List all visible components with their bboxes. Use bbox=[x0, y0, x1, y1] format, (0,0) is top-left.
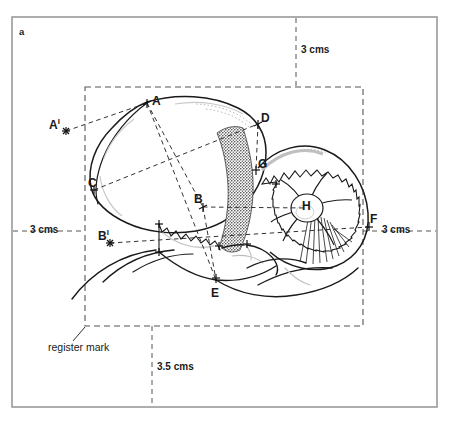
foot-to-operculum bbox=[216, 266, 276, 280]
landmark-label-E: E bbox=[211, 286, 219, 300]
anatomical-morphometry-drawing bbox=[0, 0, 459, 425]
landmark-label-H: H bbox=[302, 199, 311, 213]
operculum-group bbox=[258, 146, 368, 269]
shell-growth-lines bbox=[196, 104, 251, 128]
panel-label: a bbox=[19, 26, 24, 37]
dimension-label-bottom: 3.5 cms bbox=[157, 361, 194, 372]
landmark-marker-interior-4 bbox=[243, 240, 251, 248]
register-mark-leader bbox=[73, 327, 85, 341]
dimension-label-top: 3 cms bbox=[301, 44, 329, 55]
siphon-shading bbox=[232, 255, 263, 263]
landmark-marker-Aprime bbox=[62, 127, 70, 135]
foot-right-sweep bbox=[159, 252, 216, 280]
figure-panel-a: a 3 cms 3 cms 3 cms 3.5 cms register mar… bbox=[0, 0, 459, 425]
landmark-marker-interior-1 bbox=[155, 220, 163, 228]
landmark-label-Aprime: AI bbox=[49, 117, 60, 132]
dimension-label-left: 3 cms bbox=[30, 224, 58, 235]
landmark-label-B: B bbox=[194, 192, 203, 206]
landmark-label-G: G bbox=[258, 157, 267, 171]
operculum-halo bbox=[262, 151, 323, 170]
dimension-label-right: 3 cms bbox=[382, 224, 410, 235]
aperture-stippled-region bbox=[217, 127, 253, 252]
landmark-label-D: D bbox=[261, 111, 270, 125]
landmark-label-C: C bbox=[88, 176, 97, 190]
landmark-label-F: F bbox=[370, 212, 377, 226]
measurement-line-Aprime-A bbox=[66, 103, 147, 131]
landmark-label-A: A bbox=[152, 94, 161, 108]
landmark-label-Bprime: BI bbox=[98, 228, 109, 243]
measurement-line-A-E bbox=[147, 103, 216, 280]
register-mark-label: register mark bbox=[48, 341, 109, 353]
